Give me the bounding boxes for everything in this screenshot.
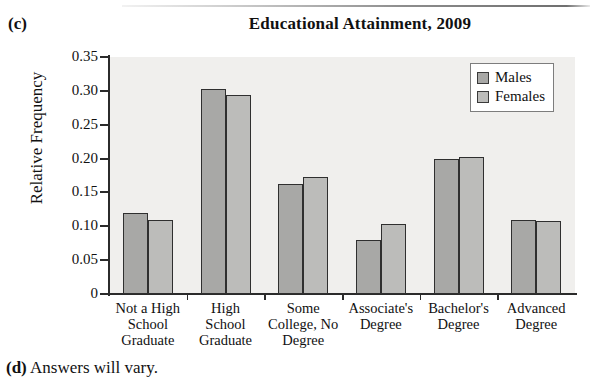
x-axis-label-line: Degree bbox=[336, 316, 426, 332]
x-axis-label-line: College, No bbox=[258, 316, 348, 332]
x-axis-category-label: AdvancedDegree bbox=[491, 300, 581, 332]
x-axis-label-line: Bachelor's bbox=[414, 300, 504, 316]
bar-chart: Educational Attainment, 2009 00.050.100.… bbox=[0, 0, 603, 355]
x-axis-label-line: Graduate bbox=[103, 332, 193, 348]
bars-layer: Not a HighSchoolGraduateHighSchoolGradua… bbox=[0, 0, 603, 355]
x-axis-category-label: HighSchoolGraduate bbox=[181, 300, 271, 348]
x-axis-label-line: Some bbox=[258, 300, 348, 316]
x-axis-category-label: Not a HighSchoolGraduate bbox=[103, 300, 193, 348]
chart-legend: Males Females bbox=[470, 63, 554, 112]
bar-males-0 bbox=[123, 213, 148, 294]
y-axis-tick bbox=[100, 56, 109, 58]
legend-item-females: Females bbox=[477, 87, 545, 106]
bar-males-4 bbox=[434, 159, 459, 294]
bar-females-2 bbox=[303, 177, 328, 294]
x-axis-label-line: Graduate bbox=[181, 332, 271, 348]
x-axis-label-line: High bbox=[181, 300, 271, 316]
x-axis-category-label: SomeCollege, NoDegree bbox=[258, 300, 348, 348]
bar-females-1 bbox=[226, 95, 251, 294]
part-d-line: (d) Answers will vary. bbox=[6, 358, 158, 378]
legend-label-males: Males bbox=[495, 70, 532, 85]
legend-label-females: Females bbox=[495, 89, 545, 104]
x-axis-category-label: Bachelor'sDegree bbox=[414, 300, 504, 332]
bar-males-1 bbox=[201, 89, 226, 294]
bar-females-4 bbox=[459, 157, 484, 294]
x-axis-label-line: Degree bbox=[491, 316, 581, 332]
x-axis-label-line: School bbox=[181, 316, 271, 332]
bar-males-2 bbox=[278, 184, 303, 294]
figure-page: (c) Educational Attainment, 2009 00.050.… bbox=[0, 0, 603, 387]
x-axis-label-line: Degree bbox=[414, 316, 504, 332]
part-d-answer-text: Answers will vary. bbox=[27, 358, 158, 377]
x-axis-label-line: Not a High bbox=[103, 300, 193, 316]
x-axis-label-line: Degree bbox=[258, 332, 348, 348]
y-axis-tick bbox=[100, 259, 109, 261]
y-axis-tick bbox=[100, 90, 109, 92]
y-axis-tick bbox=[100, 124, 109, 126]
x-axis-label-line: School bbox=[103, 316, 193, 332]
y-axis-tick bbox=[100, 158, 109, 160]
legend-swatch-males-icon bbox=[477, 72, 489, 84]
y-axis-tick bbox=[100, 191, 109, 193]
x-axis-label-line: Associate's bbox=[336, 300, 426, 316]
legend-item-males: Males bbox=[477, 68, 545, 87]
bar-females-5 bbox=[536, 221, 561, 294]
x-axis-label-line: Advanced bbox=[491, 300, 581, 316]
bar-females-3 bbox=[381, 224, 406, 294]
part-label-d: (d) bbox=[6, 358, 27, 377]
bar-males-3 bbox=[356, 240, 381, 294]
bar-males-5 bbox=[511, 220, 536, 294]
y-axis-tick bbox=[100, 293, 109, 295]
legend-swatch-females-icon bbox=[477, 91, 489, 103]
x-axis-category-label: Associate'sDegree bbox=[336, 300, 426, 332]
y-axis-tick bbox=[100, 225, 109, 227]
bar-females-0 bbox=[148, 220, 173, 294]
